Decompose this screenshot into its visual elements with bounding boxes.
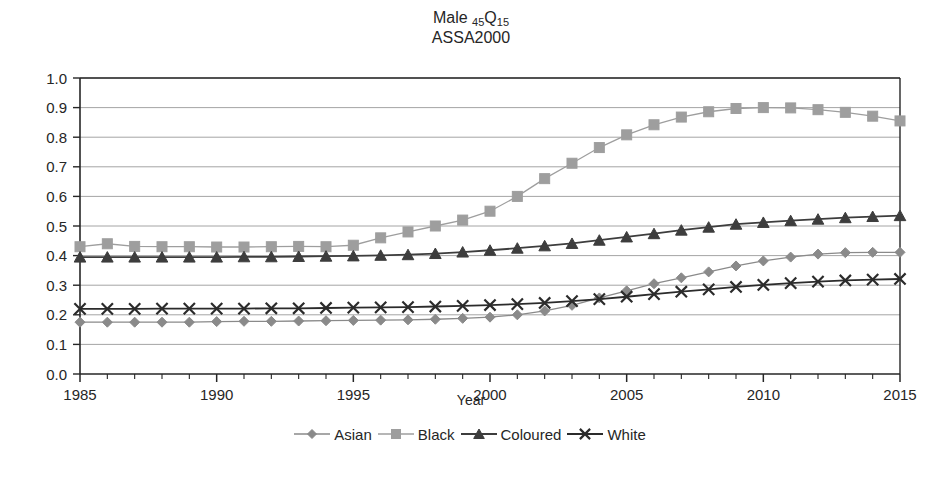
data-point-marker bbox=[840, 107, 850, 117]
data-point-marker bbox=[512, 191, 522, 201]
data-point-marker bbox=[348, 315, 358, 325]
y-axis-tick-label: 0.9 bbox=[46, 99, 67, 116]
y-axis-tick-label: 0.0 bbox=[46, 366, 67, 383]
data-point-marker bbox=[321, 316, 331, 326]
data-point-marker bbox=[157, 242, 167, 252]
data-point-marker bbox=[813, 249, 823, 259]
data-point-marker bbox=[212, 242, 222, 252]
legend-marker-triangle-icon bbox=[459, 424, 499, 444]
data-point-marker bbox=[102, 317, 112, 327]
legend-marker-diamond-icon bbox=[292, 424, 332, 444]
data-point-marker bbox=[157, 317, 167, 327]
data-point-marker bbox=[813, 105, 823, 115]
legend-label: Coloured bbox=[499, 426, 566, 443]
y-axis-tick-label: 0.6 bbox=[46, 188, 67, 205]
data-point-marker bbox=[868, 111, 878, 121]
data-point-marker bbox=[649, 279, 659, 289]
data-point-marker bbox=[485, 312, 495, 322]
data-point-marker bbox=[676, 112, 686, 122]
data-point-marker bbox=[376, 315, 386, 325]
y-axis-tick-label: 0.8 bbox=[46, 129, 67, 146]
data-point-marker bbox=[758, 103, 768, 113]
legend-marker-x-icon bbox=[565, 424, 605, 444]
data-point-marker bbox=[376, 233, 386, 243]
data-point-marker bbox=[540, 174, 550, 184]
data-point-marker bbox=[130, 317, 140, 327]
data-point-marker bbox=[102, 239, 112, 249]
data-point-marker bbox=[786, 252, 796, 262]
y-axis-tick-label: 0.5 bbox=[46, 218, 67, 235]
data-point-marker bbox=[184, 317, 194, 327]
data-point-marker bbox=[622, 130, 632, 140]
legend-entry-black[interactable]: Black bbox=[376, 424, 459, 444]
data-point-marker bbox=[430, 314, 440, 324]
data-point-marker bbox=[594, 143, 604, 153]
x-axis-title: Year bbox=[0, 392, 942, 408]
y-axis-tick-label: 0.3 bbox=[46, 277, 67, 294]
data-point-marker bbox=[458, 215, 468, 225]
series-coloured bbox=[74, 210, 906, 262]
legend-entry-coloured[interactable]: Coloured bbox=[459, 424, 566, 444]
legend-label: Black bbox=[416, 426, 459, 443]
data-point-marker bbox=[266, 316, 276, 326]
chart-legend: AsianBlackColouredWhite bbox=[0, 424, 942, 444]
y-axis-tick-label: 0.4 bbox=[46, 247, 67, 264]
y-axis-tick-label: 0.7 bbox=[46, 158, 67, 175]
data-point-marker bbox=[403, 227, 413, 237]
y-axis-tick-label: 0.2 bbox=[46, 306, 67, 323]
y-axis-tick-label: 1.0 bbox=[46, 70, 67, 87]
data-point-marker bbox=[348, 240, 358, 250]
legend-label: Asian bbox=[332, 426, 376, 443]
y-axis-tick-label: 0.1 bbox=[46, 336, 67, 353]
data-point-marker bbox=[430, 221, 440, 231]
data-point-marker bbox=[266, 242, 276, 252]
data-point-marker bbox=[294, 241, 304, 251]
legend-entry-white[interactable]: White bbox=[565, 424, 649, 444]
data-point-marker bbox=[403, 315, 413, 325]
data-point-marker bbox=[731, 261, 741, 271]
legend-entry-asian[interactable]: Asian bbox=[292, 424, 376, 444]
data-point-marker bbox=[294, 316, 304, 326]
legend-marker-square-icon bbox=[376, 424, 416, 444]
data-point-marker bbox=[391, 430, 400, 439]
chart-figure: Male 45Q15 ASSA2000 0.00.10.20.30.40.50.… bbox=[0, 0, 942, 478]
data-point-marker bbox=[184, 242, 194, 252]
data-point-marker bbox=[649, 120, 659, 130]
data-point-marker bbox=[130, 241, 140, 251]
data-point-marker bbox=[212, 317, 222, 327]
data-point-marker bbox=[75, 317, 85, 327]
series-black bbox=[75, 103, 905, 252]
data-point-marker bbox=[840, 248, 850, 258]
data-point-marker bbox=[567, 158, 577, 168]
data-point-marker bbox=[239, 316, 249, 326]
data-point-marker bbox=[75, 242, 85, 252]
data-point-marker bbox=[731, 103, 741, 113]
data-point-marker bbox=[308, 430, 317, 439]
data-point-marker bbox=[512, 310, 522, 320]
data-point-marker bbox=[485, 206, 495, 216]
data-point-marker bbox=[895, 116, 905, 126]
data-point-marker bbox=[704, 267, 714, 277]
data-point-marker bbox=[786, 103, 796, 113]
legend-label: White bbox=[605, 426, 649, 443]
data-point-marker bbox=[704, 107, 714, 117]
series-white bbox=[74, 273, 905, 314]
data-point-marker bbox=[758, 256, 768, 266]
data-point-marker bbox=[676, 273, 686, 283]
